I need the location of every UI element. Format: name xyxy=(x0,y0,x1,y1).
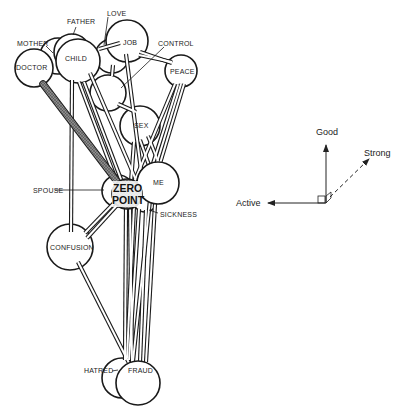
axis-corner-skew xyxy=(326,192,331,203)
label-point: POINT xyxy=(112,194,145,206)
label-spouse: SPOUSE xyxy=(33,187,64,194)
label-sickness: SICKNESS xyxy=(160,211,197,218)
label-job: JOB xyxy=(123,39,137,46)
label-zero: ZERO xyxy=(113,182,142,194)
label-sex: SEX xyxy=(134,122,149,129)
label-good: Good xyxy=(316,127,338,137)
label-mother: MOTHER xyxy=(17,40,49,47)
label-active: Active xyxy=(236,198,261,208)
label-doctor: DOCTOR xyxy=(16,64,47,71)
label-hatred: HATRED xyxy=(84,367,113,374)
semantic-diagram: MOTHER FATHER LOVE CONTROL DOCTOR CHILD … xyxy=(0,0,402,408)
label-me: ME xyxy=(153,179,164,186)
axis-corner-mark xyxy=(318,196,325,203)
label-confusion: CONFUSION xyxy=(50,244,94,251)
label-child: CHILD xyxy=(65,55,87,62)
label-control: CONTROL xyxy=(158,40,194,47)
label-father: FATHER xyxy=(67,18,95,25)
axis-legend: Good Strong Active xyxy=(236,127,391,208)
label-strong: Strong xyxy=(364,148,391,158)
label-peace: PEACE xyxy=(170,68,195,75)
strong-axis-arrow xyxy=(330,159,369,197)
label-love: LOVE xyxy=(107,10,127,17)
label-fraud: FRAUD xyxy=(128,367,153,374)
